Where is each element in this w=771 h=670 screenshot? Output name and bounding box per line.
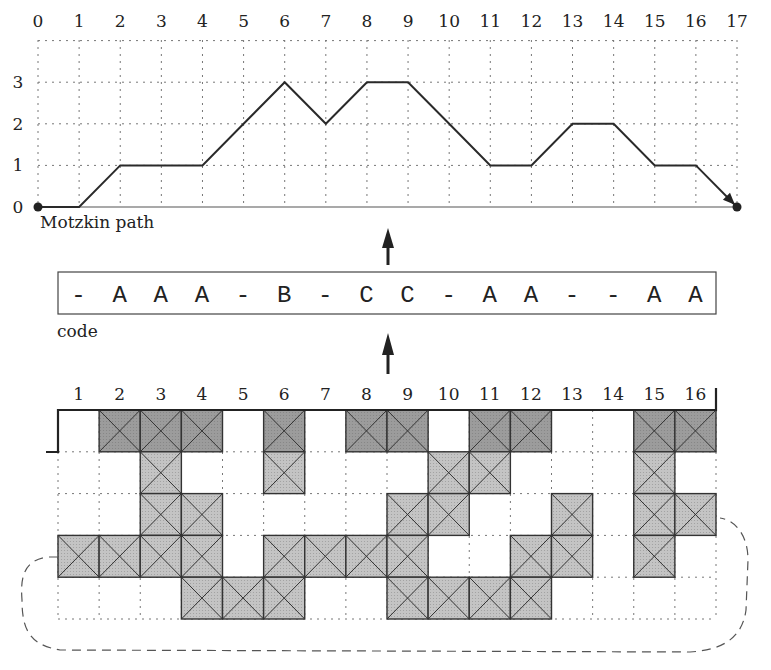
x-tick-label: 15 <box>644 11 666 31</box>
code-symbol: A <box>154 282 169 309</box>
tile-cell <box>140 452 181 494</box>
column-label: 5 <box>238 384 249 404</box>
column-label: 11 <box>479 384 501 404</box>
x-tick-label: 16 <box>685 11 707 31</box>
motzkin-path-chart: 01234567891011121314151617 0123 Motzkin … <box>13 11 748 232</box>
code-symbol: A <box>483 282 498 309</box>
column-label: 14 <box>602 384 624 404</box>
column-label: 12 <box>520 384 542 404</box>
chart-caption: Motzkin path <box>40 212 154 232</box>
column-label: 8 <box>361 384 372 404</box>
path-start-dot <box>34 203 43 212</box>
code-symbol: - <box>318 282 332 309</box>
chart-grid <box>38 40 737 207</box>
column-label: 10 <box>438 384 460 404</box>
up-arrow-upper <box>382 228 394 265</box>
code-symbol: A <box>647 282 662 309</box>
tile-grid: 12345678910111213141516 <box>22 384 748 652</box>
code-symbol: - <box>441 282 455 309</box>
tile-cell <box>264 535 305 577</box>
tile-cell <box>469 410 510 452</box>
tile-cell <box>387 410 428 452</box>
x-tick-label: 13 <box>562 11 584 31</box>
up-arrow-lower <box>382 333 394 374</box>
x-tick-label: 5 <box>238 11 249 31</box>
tile-cell <box>99 410 140 452</box>
code-symbol: - <box>236 282 250 309</box>
tile-cell <box>675 410 716 452</box>
x-tick-label: 2 <box>115 11 126 31</box>
tile-cell <box>99 535 140 577</box>
x-tick-label: 17 <box>726 11 748 31</box>
code-symbol: A <box>112 282 127 309</box>
tile-cell <box>634 452 675 494</box>
tile-cell <box>181 535 222 577</box>
column-label: 15 <box>643 384 665 404</box>
tile-cell <box>387 535 428 577</box>
x-tick-label: 10 <box>438 11 460 31</box>
x-tick-label: 4 <box>197 11 208 31</box>
x-tick-label: 11 <box>479 11 501 31</box>
grid-cells <box>58 410 716 619</box>
code-symbol: - <box>565 282 579 309</box>
x-axis-ticks: 01234567891011121314151617 <box>33 11 748 31</box>
y-tick-label: 3 <box>13 72 24 92</box>
column-label: 13 <box>561 384 583 404</box>
tile-cell <box>428 577 469 619</box>
x-tick-label: 12 <box>521 11 543 31</box>
tile-cell <box>264 452 305 494</box>
code-symbol: B <box>277 282 291 309</box>
motzkin-path-line <box>38 82 737 207</box>
motzkin-diagram: 01234567891011121314151617 0123 Motzkin … <box>0 0 771 670</box>
tile-cell <box>469 452 510 494</box>
x-tick-label: 14 <box>603 11 625 31</box>
tile-cell <box>428 494 469 536</box>
tile-cell <box>469 577 510 619</box>
y-tick-label: 0 <box>13 197 24 217</box>
tile-cell <box>387 494 428 536</box>
tile-cell <box>58 535 99 577</box>
column-label: 3 <box>155 384 166 404</box>
tile-cell <box>346 410 387 452</box>
code-symbol: C <box>400 282 414 309</box>
tile-cell <box>552 535 593 577</box>
code-symbol: C <box>359 282 373 309</box>
x-tick-label: 1 <box>74 11 85 31</box>
code-symbol: - <box>606 282 620 309</box>
code-symbol: A <box>688 282 703 309</box>
column-label: 1 <box>73 384 84 404</box>
x-tick-label: 3 <box>156 11 167 31</box>
code-symbol: A <box>195 282 210 309</box>
tile-cell <box>428 452 469 494</box>
tile-cell <box>510 577 551 619</box>
tile-cell <box>634 535 675 577</box>
tile-cell <box>675 494 716 536</box>
tile-cell <box>181 494 222 536</box>
y-tick-label: 1 <box>13 155 24 175</box>
tile-cell <box>140 494 181 536</box>
x-tick-label: 8 <box>362 11 373 31</box>
tile-cell <box>387 577 428 619</box>
column-label: 2 <box>114 384 125 404</box>
code-symbols: -AAA-B-CC-AA--AA <box>71 282 703 309</box>
tile-cell <box>140 535 181 577</box>
x-tick-label: 6 <box>279 11 290 31</box>
tile-cell <box>346 535 387 577</box>
tile-cell <box>223 577 264 619</box>
tile-cell <box>264 410 305 452</box>
tile-cell <box>264 577 305 619</box>
code-caption: code <box>57 321 98 341</box>
code-box: -AAA-B-CC-AA--AA code <box>57 272 716 341</box>
grid-column-labels: 12345678910111213141516 <box>73 384 706 404</box>
tile-cell <box>634 410 675 452</box>
code-symbol: A <box>524 282 539 309</box>
x-tick-label: 0 <box>33 11 44 31</box>
tile-cell <box>181 577 222 619</box>
column-label: 16 <box>685 384 707 404</box>
column-label: 9 <box>402 384 413 404</box>
column-label: 7 <box>320 384 331 404</box>
tile-cell <box>140 410 181 452</box>
x-tick-label: 7 <box>320 11 331 31</box>
column-label: 6 <box>279 384 290 404</box>
tile-cell <box>634 494 675 536</box>
